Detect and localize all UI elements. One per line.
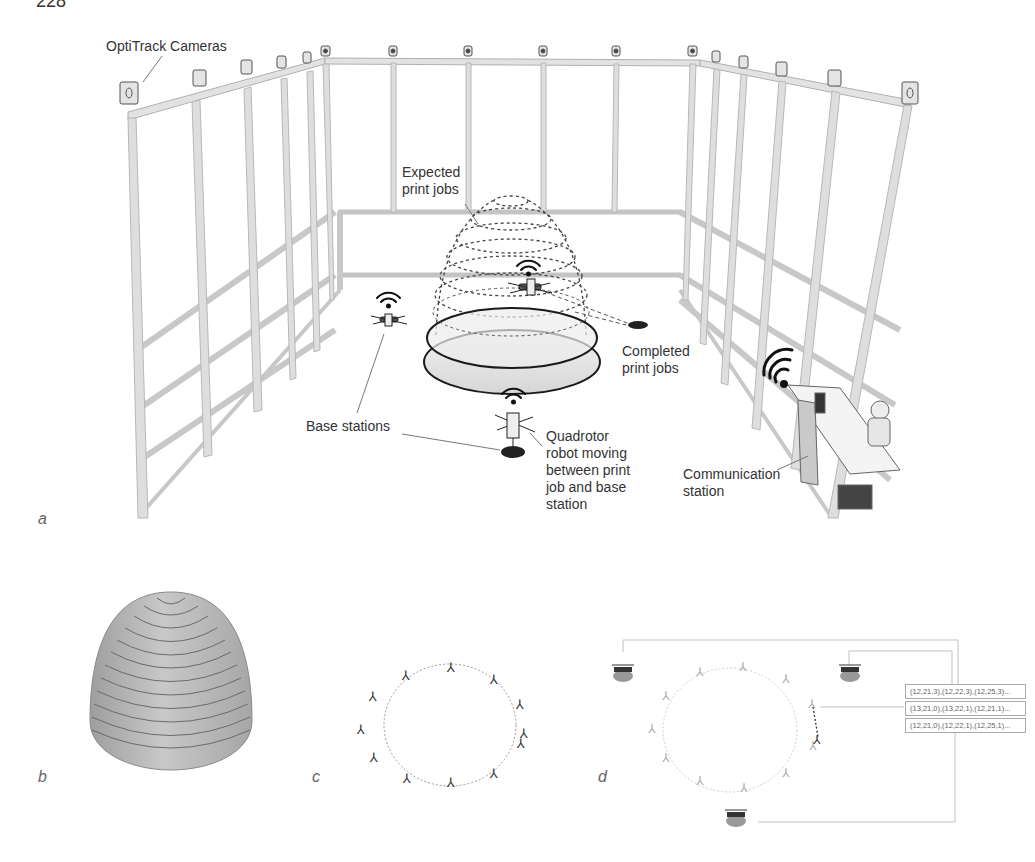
svg-text:⅄: ⅄ (368, 689, 377, 704)
svg-text:⅄: ⅄ (515, 697, 524, 712)
svg-text:⅄: ⅄ (661, 751, 670, 765)
svg-text:⅄: ⅄ (738, 660, 747, 674)
svg-text:⅄: ⅄ (739, 781, 748, 795)
leader-line-base-stations-1 (357, 334, 384, 413)
svg-text:⅄: ⅄ (401, 668, 410, 683)
svg-text:⅄: ⅄ (647, 722, 656, 736)
coordinate-box-2: (13,21,0),(13,22,1),(12,21,1)... (905, 701, 1026, 716)
svg-text:⅄: ⅄ (489, 766, 498, 781)
svg-text:⅄: ⅄ (661, 689, 670, 703)
coordinate-box-1: (12,21,3),(12,22,3),(12,25,3)... (905, 684, 1026, 699)
svg-text:⅄: ⅄ (446, 775, 455, 790)
label-base-stations: Base stations (306, 418, 390, 435)
leader-line-quadrotor (530, 433, 542, 446)
svg-text:⅄: ⅄ (812, 733, 821, 747)
leader-line-cameras (143, 56, 162, 82)
svg-text:⅄: ⅄ (356, 722, 365, 737)
leader-line-base-stations-2 (402, 434, 500, 450)
svg-text:⅄: ⅄ (402, 771, 411, 786)
label-completed-print-jobs: Completed print jobs (622, 343, 690, 377)
svg-text:⅄: ⅄ (695, 665, 704, 679)
quadrotor-left (371, 314, 407, 326)
svg-text:⅄: ⅄ (807, 697, 816, 711)
base-drone-icons (612, 665, 861, 827)
lab-frame-illustration (0, 0, 1035, 540)
svg-text:⅄: ⅄ (695, 774, 704, 788)
panel-letter-a: a (38, 510, 47, 528)
svg-text:⅄: ⅄ (519, 726, 528, 741)
optitrack-camera-icons (120, 46, 918, 104)
panel-letter-d: d (598, 768, 607, 786)
communication-station (788, 385, 900, 509)
base-station-disc (501, 446, 525, 458)
label-optitrack-cameras: OptiTrack Cameras (106, 38, 227, 55)
quadrotor-lower (495, 413, 535, 446)
completed-print-job-ring (427, 308, 597, 368)
svg-text:⅄: ⅄ (369, 750, 378, 765)
panel-letter-c: c (312, 768, 320, 786)
panel-letter-b: b (38, 768, 47, 786)
svg-text:⅄: ⅄ (516, 736, 525, 751)
label-quadrotor-robot: Quadrotor robot moving between print job… (546, 428, 630, 513)
target-disc (628, 321, 648, 329)
svg-text:⅄: ⅄ (489, 672, 498, 687)
svg-text:⅄: ⅄ (808, 739, 817, 753)
svg-text:⅄: ⅄ (781, 672, 790, 686)
label-expected-print-jobs: Expected print jobs (402, 164, 460, 198)
label-communication-station: Communication station (683, 466, 780, 500)
svg-text:⅄: ⅄ (446, 660, 455, 675)
coordinate-box-3: (12,21,0),(12,22,1),(12,25,1)... (905, 718, 1026, 733)
svg-text:⅄: ⅄ (781, 766, 790, 780)
